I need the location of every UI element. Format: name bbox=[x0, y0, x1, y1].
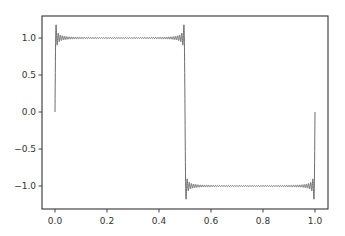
x-tick-label: 1.0 bbox=[308, 216, 323, 226]
y-tick-label: 0.0 bbox=[22, 107, 37, 117]
plot-lines bbox=[55, 25, 315, 199]
x-tick-label: 0.0 bbox=[48, 216, 63, 226]
square-wave-line bbox=[55, 25, 315, 199]
x-tick-label: 0.2 bbox=[100, 216, 114, 226]
y-tick-label: 0.5 bbox=[22, 70, 36, 80]
x-tick-label: 0.4 bbox=[152, 216, 167, 226]
y-tick-label: 1.0 bbox=[22, 33, 37, 43]
x-axis: 0.00.20.40.60.81.0 bbox=[48, 209, 323, 226]
x-tick-label: 0.8 bbox=[256, 216, 271, 226]
square-wave-chart: 0.00.20.40.60.81.0 1.00.50.0−0.5−1.0 bbox=[0, 0, 345, 236]
y-tick-label: −0.5 bbox=[14, 144, 36, 154]
x-tick-label: 0.6 bbox=[204, 216, 219, 226]
y-axis: 1.00.50.0−0.5−1.0 bbox=[14, 33, 42, 191]
y-tick-label: −1.0 bbox=[14, 181, 36, 191]
